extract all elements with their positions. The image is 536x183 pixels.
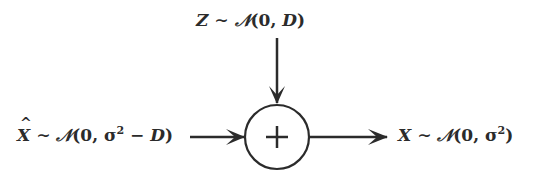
noise-args-close: ) bbox=[297, 10, 305, 30]
noise-variable: Z bbox=[196, 10, 208, 30]
adder-to-output-arrow bbox=[310, 129, 388, 145]
output-variable: X bbox=[398, 125, 411, 145]
output-distribution: 𝒩 bbox=[437, 125, 453, 145]
input-args-open: (0, σ bbox=[72, 125, 116, 145]
output-relation: ∼ bbox=[417, 125, 431, 145]
adder-node bbox=[245, 105, 309, 169]
output-args-open: (0, σ bbox=[453, 125, 497, 145]
noise-relation: ∼ bbox=[214, 10, 228, 30]
input-minus: − bbox=[124, 125, 150, 145]
input-label: X ∼ 𝒩(0, σ2 − D) bbox=[17, 127, 173, 144]
output-label: X ∼ 𝒩(0, σ2) bbox=[398, 127, 513, 144]
noise-param: D bbox=[282, 10, 297, 30]
input-to-adder-arrow bbox=[190, 129, 245, 145]
output-args-close: ) bbox=[505, 125, 513, 145]
input-distribution: 𝒩 bbox=[56, 125, 72, 145]
noise-distribution: 𝒩 bbox=[235, 10, 251, 30]
noise-to-adder-arrow bbox=[269, 38, 285, 104]
input-variable: X bbox=[17, 127, 30, 144]
noise-args-open: (0, bbox=[251, 10, 283, 30]
noise-label: Z ∼ 𝒩(0, D) bbox=[196, 12, 305, 29]
input-param: D bbox=[150, 125, 165, 145]
input-relation: ∼ bbox=[36, 125, 50, 145]
input-args-close: ) bbox=[165, 125, 173, 145]
